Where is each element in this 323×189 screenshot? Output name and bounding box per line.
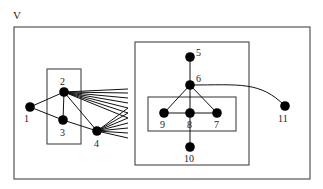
- node-3: 3: [58, 115, 68, 138]
- node-label: 11: [278, 113, 288, 124]
- node-1: 1: [24, 102, 35, 124]
- node-label: 5: [196, 47, 201, 58]
- curved-edges: [190, 85, 285, 106]
- node-dot: [58, 115, 68, 125]
- node-label: 9: [160, 119, 165, 130]
- fan-edge-from-2: [64, 92, 128, 118]
- node-2: 2: [59, 76, 69, 97]
- node-label: 8: [187, 119, 192, 130]
- node-dot: [159, 108, 169, 118]
- cluster-boxes: [14, 27, 310, 179]
- node-dot: [185, 142, 195, 152]
- node-dot: [92, 126, 102, 136]
- node-label: 3: [60, 127, 65, 138]
- node-dot: [185, 80, 195, 90]
- fan-edge-from-2: [64, 89, 128, 92]
- node-label: 10: [184, 153, 194, 164]
- node-7: 7: [212, 108, 222, 130]
- diagram-title: V: [13, 9, 21, 21]
- node-dot: [280, 101, 290, 111]
- node-6: 6: [185, 73, 201, 90]
- graph-diagram: V 1234567891011: [0, 0, 323, 189]
- edge-6-9: [164, 85, 190, 113]
- node-dot: [185, 52, 195, 62]
- node-label: 1: [24, 113, 29, 124]
- node-dot: [185, 108, 195, 118]
- node-11: 11: [278, 101, 290, 124]
- node-dot: [59, 87, 69, 97]
- node-5: 5: [185, 47, 201, 62]
- node-label: 6: [196, 73, 201, 84]
- node-10: 10: [184, 142, 195, 164]
- node-dot: [25, 102, 35, 112]
- fan-edge-from-2: [64, 92, 128, 108]
- edge-6-7: [190, 85, 217, 113]
- node-4: 4: [92, 126, 102, 149]
- node-dot: [212, 108, 222, 118]
- node-label: 2: [60, 76, 65, 87]
- node-9: 9: [159, 108, 169, 130]
- node-label: 4: [94, 138, 99, 149]
- cluster-box-outer: [14, 27, 310, 179]
- node-label: 7: [214, 119, 219, 130]
- curved-edge-6-11: [190, 85, 285, 106]
- node-8: 8: [185, 108, 195, 130]
